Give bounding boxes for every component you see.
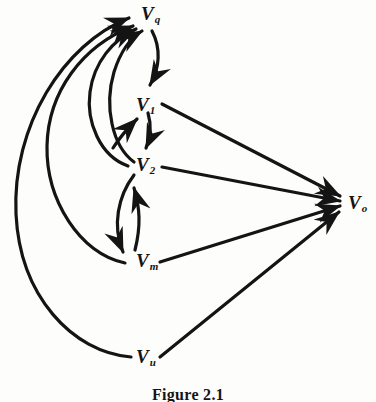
edge-vq-to-v1 [150,31,158,85]
node-vo-subscript: o [362,202,368,214]
node-v1-subscript: 1 [150,104,156,116]
edge-v1-to-v2 [146,113,150,148]
edge-v2-to-vm [117,175,134,252]
edge-v1-to-vo [162,104,340,196]
figure-caption: Figure 2.1 [0,386,376,402]
node-v2-subscript: 2 [150,164,156,176]
node-label-vq: Vq [141,4,160,25]
node-v2-symbol: V [136,154,149,175]
node-label-v2: V2 [136,155,155,176]
node-v1-symbol: V [136,94,149,115]
node-vo-symbol: V [348,192,361,213]
node-label-vo: Vo [348,193,367,214]
edge-v2-to-v1 [113,119,137,148]
node-vq-subscript: q [155,13,161,25]
node-vu-symbol: V [136,346,149,367]
graph-canvas [0,0,376,402]
node-label-v1: V1 [136,95,155,116]
figure-container: Vq V1 V2 Vm Vu Vo Figure 2.1 [0,0,376,402]
node-vq-symbol: V [141,3,154,24]
node-label-vu: Vu [136,347,156,368]
node-vm-subscript: m [150,260,159,272]
node-vu-subscript: u [150,356,156,368]
edge-v2-to-vq [89,29,136,166]
edge-vm-to-v2 [134,188,139,250]
node-label-vm: Vm [136,251,158,272]
node-vm-symbol: V [136,250,149,271]
